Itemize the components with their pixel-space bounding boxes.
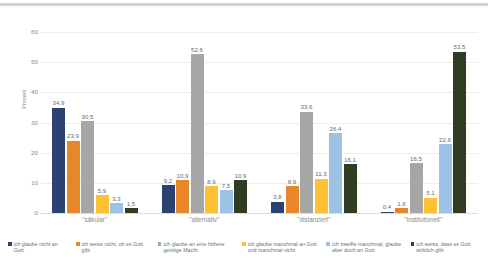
bar-value-label: 7,5 <box>222 182 230 189</box>
bar-value-label: 3,8 <box>273 193 281 200</box>
bar[interactable] <box>424 198 437 213</box>
legend-swatch-icon <box>326 242 330 246</box>
bar-group-bars: 0,41,616,55,122,853,5 <box>369 8 479 213</box>
legend-swatch-icon <box>76 242 80 246</box>
bar[interactable] <box>205 186 218 213</box>
bar-column[interactable]: 8,9 <box>286 8 299 213</box>
bar-column[interactable]: 7,5 <box>220 8 233 213</box>
bar[interactable] <box>315 179 328 213</box>
bar-column[interactable]: 26,4 <box>329 8 342 213</box>
bar[interactable] <box>271 202 284 213</box>
bar-column[interactable]: 34,9 <box>52 8 65 213</box>
y-tick-label: 50 <box>18 59 38 65</box>
bar-value-label: 9,2 <box>164 177 172 184</box>
legend-swatch-icon <box>242 242 246 246</box>
bar-column[interactable]: 16,5 <box>410 8 423 213</box>
bar[interactable] <box>52 108 65 213</box>
bar-group-bars: 3,88,933,611,326,416,1 <box>259 8 369 213</box>
bar[interactable] <box>191 54 204 213</box>
bar-chart: Prozent 6050403020100 34,923,930,55,93,3… <box>0 8 488 236</box>
bar[interactable] <box>162 185 175 213</box>
bar-column[interactable]: 0,4 <box>381 8 394 213</box>
bar[interactable] <box>234 180 247 213</box>
bar-column[interactable]: 9,2 <box>162 8 175 213</box>
bar[interactable] <box>329 133 342 213</box>
bar-value-label: 1,5 <box>127 200 135 207</box>
bar-column[interactable]: 16,1 <box>344 8 357 213</box>
category-label: "säkular" <box>40 216 150 223</box>
bar-column[interactable]: 52,6 <box>191 8 204 213</box>
y-tick-label: 10 <box>18 180 38 186</box>
bar-value-label: 11,3 <box>315 170 326 177</box>
bar-column[interactable]: 33,6 <box>300 8 313 213</box>
bar-value-label: 10,9 <box>235 172 247 179</box>
legend-item[interactable]: ich weiss, dass es Gott wirklich gibt <box>411 241 488 269</box>
y-tick-label: 40 <box>18 89 38 95</box>
bar-value-label: 23,9 <box>67 132 79 139</box>
bar-column[interactable]: 5,9 <box>96 8 109 213</box>
bar-column[interactable]: 5,1 <box>424 8 437 213</box>
bar-value-label: 16,5 <box>410 155 422 162</box>
bar-value-label: 5,1 <box>426 189 434 196</box>
legend-label: ich glaube nicht an Gott. <box>14 241 69 254</box>
bar-value-label: 52,6 <box>191 46 203 53</box>
bar-column[interactable]: 22,8 <box>439 8 452 213</box>
plot-area: 34,923,930,55,93,31,5"säkular"9,210,952,… <box>40 8 478 214</box>
legend-item[interactable]: ich glaube an eine höhere geistige Macht <box>158 241 235 269</box>
bar-column[interactable]: 1,6 <box>395 8 408 213</box>
bar-value-label: 33,6 <box>301 103 313 110</box>
y-tick-label: 20 <box>18 150 38 156</box>
bar-value-label: 5,9 <box>98 187 106 194</box>
legend-swatch-icon <box>411 242 415 246</box>
bar-value-label: 34,9 <box>53 99 65 106</box>
bar-value-label: 8,9 <box>288 178 296 185</box>
bar[interactable] <box>300 112 313 213</box>
bar-column[interactable]: 3,3 <box>110 8 123 213</box>
bar-column[interactable]: 53,5 <box>453 8 466 213</box>
legend-item[interactable]: ich zweifle manchmal, glaube aber doch a… <box>326 241 403 269</box>
bar[interactable] <box>395 208 408 213</box>
bar[interactable] <box>81 121 94 213</box>
bar-value-label: 26,4 <box>330 125 342 132</box>
bar[interactable] <box>344 164 357 213</box>
legend-item[interactable]: ich glaube manchmal an Gott und manchmal… <box>242 241 319 269</box>
bar-column[interactable]: 10,9 <box>234 8 247 213</box>
bar-column[interactable]: 23,9 <box>67 8 80 213</box>
bar-value-label: 16,1 <box>344 156 356 163</box>
bar-group: 9,210,952,68,97,510,9"alternativ" <box>150 8 260 213</box>
bar[interactable] <box>125 208 138 213</box>
bar[interactable] <box>176 180 189 213</box>
bar[interactable] <box>220 190 233 213</box>
bar-value-label: 1,6 <box>397 200 405 207</box>
bar[interactable] <box>96 195 109 213</box>
category-label: "institutionell" <box>369 216 479 223</box>
bar-column[interactable]: 3,8 <box>271 8 284 213</box>
chart-legend: ich glaube nicht an Gott.ich weiss nicht… <box>0 241 488 269</box>
bar-column[interactable]: 10,9 <box>176 8 189 213</box>
bar[interactable] <box>410 163 423 213</box>
bar-group: 3,88,933,611,326,416,1"distanziert" <box>259 8 369 213</box>
bar[interactable] <box>439 144 452 213</box>
bar[interactable] <box>286 186 299 213</box>
bar[interactable] <box>381 212 394 213</box>
bar-column[interactable]: 8,9 <box>205 8 218 213</box>
bar[interactable] <box>67 141 80 213</box>
bar-column[interactable]: 1,5 <box>125 8 138 213</box>
legend-label: ich weiss nicht, ob es Gott gibt <box>82 241 151 254</box>
bar[interactable] <box>110 203 123 213</box>
bar-value-label: 3,3 <box>112 195 120 202</box>
y-tick-label: 0 <box>18 210 38 216</box>
bar-column[interactable]: 30,5 <box>81 8 94 213</box>
legend-item[interactable]: ich glaube nicht an Gott. <box>8 241 69 269</box>
bar-group: 0,41,616,55,122,853,5"institutionell" <box>369 8 479 213</box>
legend-label: ich glaube an eine höhere geistige Macht <box>163 241 235 254</box>
bar-value-label: 30,5 <box>82 113 94 120</box>
bar-value-label: 10,9 <box>177 172 189 179</box>
bar[interactable] <box>453 52 466 213</box>
category-label: "distanziert" <box>259 216 369 223</box>
legend-label: ich zweifle manchmal, glaube aber doch a… <box>332 241 404 254</box>
legend-item[interactable]: ich weiss nicht, ob es Gott gibt <box>76 241 151 269</box>
category-label: "alternativ" <box>150 216 260 223</box>
bar-column[interactable]: 11,3 <box>315 8 328 213</box>
bar-value-label: 0,4 <box>383 203 391 210</box>
